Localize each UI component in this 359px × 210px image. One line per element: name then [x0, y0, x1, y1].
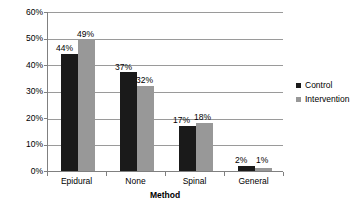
legend-item-intervention: Intervention [296, 93, 349, 105]
bar-control [61, 54, 78, 171]
bar-value-label-control: 37% [115, 63, 132, 72]
bar-pair [225, 12, 284, 171]
y-tick-label: 60% [3, 8, 43, 17]
bar-value-label-control: 2% [235, 156, 247, 165]
y-tick-label: 0% [3, 167, 43, 176]
bar-group-general: 2% 1% [225, 12, 284, 171]
bar-control [179, 126, 196, 171]
x-tick-mark [283, 172, 284, 176]
y-tick-label: 50% [3, 34, 43, 43]
bar-value-label-intervention: 18% [194, 113, 211, 122]
legend-swatch-icon [296, 97, 301, 102]
y-tick-label: 30% [3, 87, 43, 96]
bar-intervention [137, 86, 154, 171]
bar-pair [107, 12, 166, 171]
y-tick-label: 40% [3, 61, 43, 70]
y-tick-label: 10% [3, 140, 43, 149]
x-category-label-epidural: Epidural [47, 176, 106, 186]
x-axis-title: Method [0, 190, 330, 200]
bar-intervention [255, 168, 272, 171]
x-category-label-spinal: Spinal [165, 176, 224, 186]
x-category-label-general: General [224, 176, 283, 186]
bar-group-spinal: 17% 18% [166, 12, 225, 171]
x-category-label-none: None [106, 176, 165, 186]
bar-value-label-control: 17% [173, 116, 190, 125]
bar-intervention [196, 123, 213, 171]
bar-value-label-intervention: 1% [256, 156, 268, 165]
y-tick-label: 20% [3, 114, 43, 123]
bar-group-epidural: 44% 49% [48, 12, 107, 171]
plot-area: 44% 49% 37% 32% 17% 18% [47, 12, 283, 172]
legend-swatch-icon [296, 83, 301, 88]
legend-label: Intervention [305, 95, 349, 104]
bar-value-label-intervention: 49% [77, 30, 94, 39]
legend-item-control: Control [296, 79, 349, 91]
bar-pair [166, 12, 225, 171]
bar-group-none: 37% 32% [107, 12, 166, 171]
legend-label: Control [305, 81, 332, 90]
bar-value-label-intervention: 32% [136, 76, 153, 85]
bar-control [238, 166, 255, 171]
chart-legend: Control Intervention [296, 79, 349, 107]
bar-control [120, 72, 137, 171]
bar-intervention [78, 40, 95, 171]
bar-value-label-control: 44% [56, 44, 73, 53]
bar-chart: 60% 50% 40% 30% 20% 10% 0% 44% 49% [0, 0, 359, 210]
